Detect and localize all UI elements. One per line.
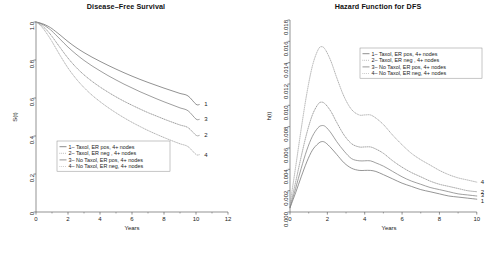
svg-text:Years: Years	[124, 225, 139, 231]
legend-label-4: 4– No Taxol, ER neg, 4+ nodes	[372, 70, 447, 76]
curve-end-label-4: 4	[204, 152, 208, 158]
svg-text:h(t): h(t)	[266, 111, 272, 120]
svg-text:0.012: 0.012	[283, 83, 289, 99]
svg-text:10: 10	[193, 216, 200, 222]
svg-text:0.006: 0.006	[283, 147, 289, 163]
curve-3	[36, 22, 199, 120]
curve-end-label-4: 4	[481, 179, 485, 185]
svg-text:10: 10	[473, 216, 480, 222]
svg-text:0.4: 0.4	[29, 135, 35, 144]
svg-text:S(t): S(t)	[12, 112, 18, 122]
svg-text:6: 6	[130, 216, 134, 222]
panel-hazard-function: Hazard Function for DFS 0.0000.0020.0040…	[252, 0, 504, 256]
svg-text:0.008: 0.008	[283, 126, 289, 142]
svg-text:8: 8	[162, 216, 166, 222]
svg-text:0.2: 0.2	[29, 173, 35, 182]
curve-end-label-3: 3	[204, 116, 208, 122]
svg-text:0.010: 0.010	[283, 105, 289, 121]
svg-text:1.0: 1.0	[29, 21, 35, 30]
svg-text:6: 6	[400, 216, 404, 222]
legend-label-2: 2– Taxol, ER neg , 4+ nodes	[69, 150, 137, 156]
svg-text:0.018: 0.018	[283, 19, 289, 35]
curve-end-label-1: 1	[481, 198, 485, 204]
svg-text:4: 4	[363, 216, 367, 222]
svg-text:0: 0	[34, 216, 38, 222]
legend-label-1: 1– Taxol, ER pos, 4+ nodes	[69, 144, 135, 150]
legend-label-3: 3– No Taxol, ER pos, 4+ nodes	[372, 64, 447, 70]
svg-text:2: 2	[66, 216, 70, 222]
curve-1	[36, 22, 199, 105]
svg-text:2: 2	[326, 216, 330, 222]
curve-end-label-1: 1	[204, 101, 208, 107]
svg-text:0.014: 0.014	[283, 62, 289, 78]
curve-end-label-3: 3	[481, 192, 485, 198]
svg-text:0.002: 0.002	[283, 190, 289, 206]
svg-text:0.004: 0.004	[283, 169, 289, 185]
svg-text:0.8: 0.8	[29, 59, 35, 68]
svg-text:0.6: 0.6	[29, 97, 35, 106]
legend-label-2: 2– Taxol, ER neg , 4+ nodes	[372, 57, 440, 63]
svg-text:Years: Years	[381, 225, 396, 231]
svg-text:8: 8	[438, 216, 442, 222]
curve-2	[290, 102, 477, 207]
svg-text:4: 4	[98, 216, 102, 222]
plot-right: 0.0000.0020.0040.0060.0080.0100.0120.014…	[252, 0, 504, 256]
legend-label-3: 3– No Taxol, ER pos, 4+ nodes	[69, 157, 144, 163]
plot-left: 00.20.40.60.81.0024681012YearsS(t)12341–…	[0, 0, 252, 256]
legend-label-1: 1– Taxol, ER pos, 4+ nodes	[372, 51, 438, 57]
svg-text:12: 12	[225, 216, 232, 222]
curve-end-label-2: 2	[204, 132, 208, 138]
svg-text:0: 0	[288, 216, 292, 222]
figure-root: Disease–Free Survival 00.20.40.60.81.002…	[0, 0, 504, 256]
curve-4	[36, 22, 199, 155]
svg-text:0.016: 0.016	[283, 41, 289, 57]
panel-disease-free-survival: Disease–Free Survival 00.20.40.60.81.002…	[0, 0, 252, 256]
legend-label-4: 4– No Taxol, ER neg, 4+ nodes	[69, 163, 144, 169]
curve-3	[290, 126, 477, 208]
